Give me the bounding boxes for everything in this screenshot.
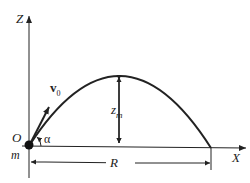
max-height-label: zm <box>111 103 123 120</box>
trajectory-diagram <box>0 0 250 183</box>
x-axis <box>22 146 246 148</box>
angle-label: α <box>44 133 50 145</box>
origin-label: O <box>12 131 21 144</box>
angle-arc <box>37 137 41 146</box>
velocity-label: v0 <box>50 81 61 98</box>
mass-label: m <box>11 149 20 161</box>
mass-ball <box>25 141 34 150</box>
x-axis-label: X <box>232 151 240 164</box>
range-label: R <box>110 156 118 169</box>
z-axis-label: Z <box>16 12 23 25</box>
